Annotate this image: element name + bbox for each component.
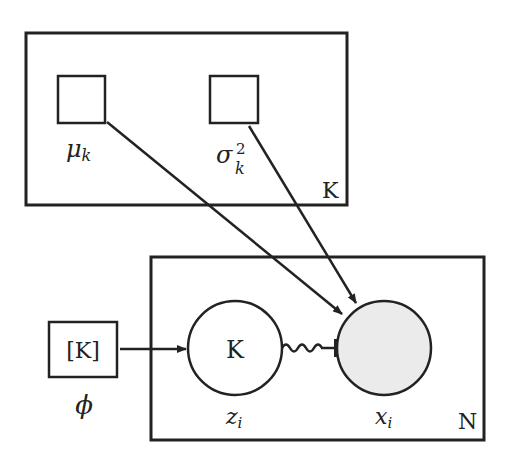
z-node: K zi [188, 301, 282, 432]
mu-label: μk [66, 135, 91, 165]
sigma-sub: k [235, 159, 245, 178]
x-label: xi [375, 404, 392, 432]
phi-node: [K] ϕ [49, 322, 117, 420]
sigma-label: σ [216, 141, 233, 169]
edge-z-x-squiggle [282, 339, 336, 357]
phi-inner: [K] [66, 338, 100, 363]
x-node: xi [337, 301, 431, 432]
mu-node: μk [58, 76, 105, 165]
z-inner: K [226, 336, 245, 364]
edge-sigma-x [249, 126, 356, 303]
sigma-sup: 2 [236, 140, 246, 158]
phi-label: ϕ [75, 390, 93, 420]
plate-n-label: N [458, 409, 477, 434]
plate-k-label: K [322, 178, 339, 203]
plate-diagram: K μk σ 2 k N [K] ϕ K zi xi [0, 0, 515, 461]
z-label: zi [225, 404, 243, 432]
